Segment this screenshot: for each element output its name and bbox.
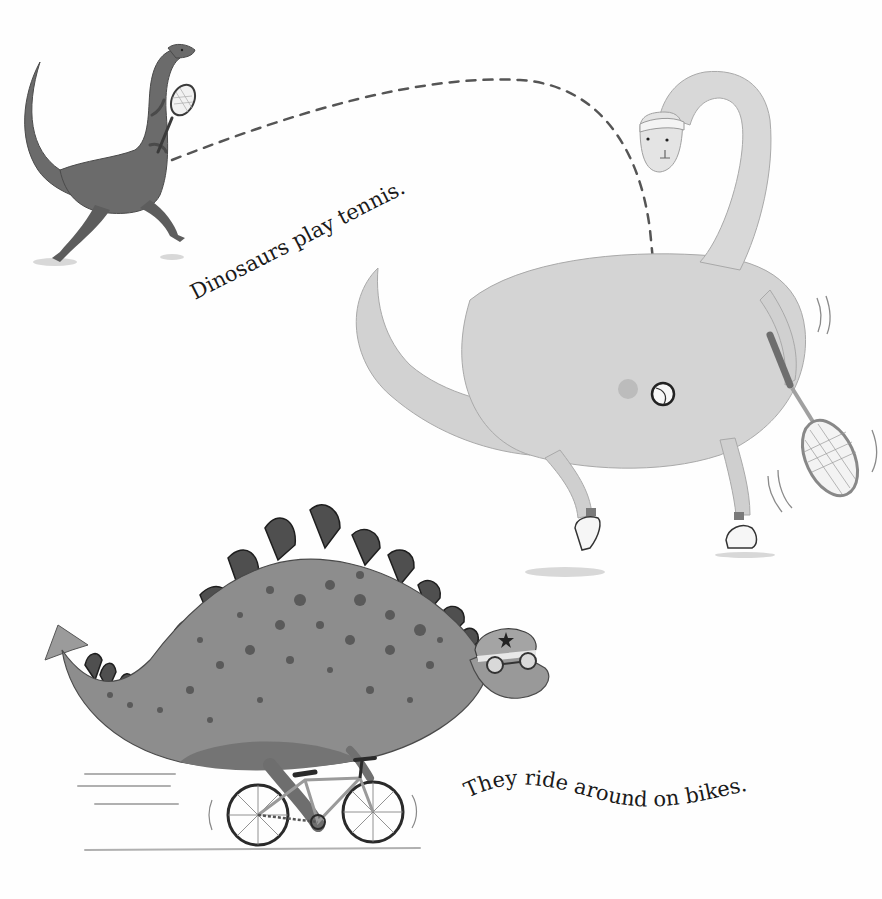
caption-bikes: They ride around on bikes. bbox=[460, 766, 749, 812]
small-dinosaur-icon bbox=[25, 44, 195, 262]
tennis-ball-icon bbox=[652, 383, 674, 405]
sneakers-icon bbox=[575, 508, 757, 550]
caption-bikes-text: They ride around on bikes. bbox=[460, 766, 749, 812]
brachiosaurus-icon bbox=[356, 71, 805, 518]
picture-book-page: Dinosaurs play tennis. bbox=[0, 0, 882, 899]
bicycle-icon bbox=[228, 758, 403, 845]
illustration-canvas: Dinosaurs play tennis. bbox=[0, 0, 882, 899]
